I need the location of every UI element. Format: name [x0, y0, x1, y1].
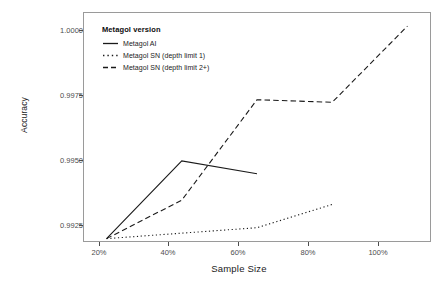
- series-line-metagol-ai: [107, 161, 257, 239]
- legend-title: Metagol version: [102, 25, 209, 34]
- y-axis-tick-label: 0.9925: [39, 221, 83, 230]
- x-axis-tick-mark: [99, 242, 100, 246]
- x-axis-tick-mark: [378, 242, 379, 246]
- line-chart: Accuracy 1.0000 0.9975 0.9950 0.9925 20%…: [0, 0, 441, 287]
- plot-panel: Metagol version Metagol AI Metagol SN (d…: [83, 12, 431, 242]
- legend-item-label: Metagol SN (depth limit 1): [123, 52, 205, 59]
- x-axis-tick-label: 80%: [283, 248, 333, 257]
- y-axis-title: Accuracy: [19, 55, 29, 175]
- legend-key-dotted-line-icon: [102, 50, 119, 61]
- x-axis-tick-label: 60%: [213, 248, 263, 257]
- legend-item-label: Metagol AI: [123, 40, 157, 47]
- x-axis-title: Sample Size: [99, 263, 379, 274]
- x-axis-tick-mark: [238, 242, 239, 246]
- legend-item-metagol-sn-depth-1[interactable]: Metagol SN (depth limit 1): [102, 50, 209, 61]
- legend-item-metagol-ai[interactable]: Metagol AI: [102, 38, 209, 49]
- y-axis-tick-label: 0.9975: [39, 91, 83, 100]
- legend: Metagol version Metagol AI Metagol SN (d…: [97, 21, 215, 79]
- y-axis-tick-label: 0.9950: [39, 156, 83, 165]
- y-axis-tick-label: 1.0000: [39, 26, 83, 35]
- x-axis-tick-label: 20%: [74, 248, 124, 257]
- legend-item-metagol-sn-depth-2plus[interactable]: Metagol SN (depth limit 2+): [102, 62, 209, 73]
- legend-key-solid-line-icon: [102, 38, 119, 49]
- x-axis-tick-mark: [308, 242, 309, 246]
- legend-key-dashed-line-icon: [102, 62, 119, 73]
- x-axis-tick-label: 40%: [143, 248, 193, 257]
- legend-item-label: Metagol SN (depth limit 2+): [123, 64, 209, 71]
- x-axis-tick-label: 100%: [353, 248, 403, 257]
- x-axis-tick-mark: [168, 242, 169, 246]
